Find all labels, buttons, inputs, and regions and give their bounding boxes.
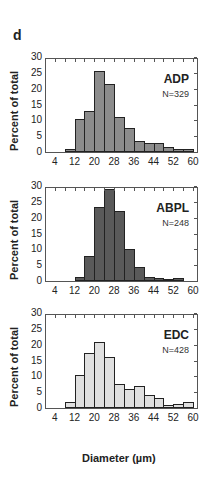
x-minor-tick xyxy=(144,315,145,318)
y-minor-tick xyxy=(194,202,197,203)
plot-area-abpl: ABPLN=248 xyxy=(45,187,198,282)
y-tick-label: 10 xyxy=(20,114,42,125)
x-minor-tick xyxy=(94,188,95,191)
y-axis-label: Percent of total xyxy=(8,199,20,279)
x-minor-tick xyxy=(55,315,56,318)
x-minor-tick xyxy=(144,59,145,62)
x-tick-label: 28 xyxy=(104,156,124,167)
y-minor-tick xyxy=(194,73,197,74)
y-tick-label: 15 xyxy=(20,355,42,366)
y-tick-label: 10 xyxy=(20,243,42,254)
y-minor-tick xyxy=(194,186,197,187)
sample-size-label: N=248 xyxy=(162,218,189,228)
x-minor-tick xyxy=(193,188,194,191)
x-minor-tick xyxy=(65,188,66,191)
x-minor-tick xyxy=(114,188,115,191)
x-minor-tick xyxy=(75,59,76,62)
histogram-bar xyxy=(183,149,194,152)
y-minor-tick xyxy=(194,313,197,314)
x-minor-tick xyxy=(193,315,194,318)
y-minor-tick xyxy=(194,105,197,106)
x-minor-tick xyxy=(75,188,76,191)
x-minor-tick xyxy=(144,188,145,191)
x-minor-tick xyxy=(154,188,155,191)
y-tick-label: 20 xyxy=(20,212,42,223)
x-minor-tick xyxy=(134,188,135,191)
x-minor-tick xyxy=(104,315,105,318)
x-minor-tick xyxy=(134,315,135,318)
y-tick-label: 10 xyxy=(20,370,42,381)
x-tick-label: 44 xyxy=(144,156,164,167)
x-minor-tick xyxy=(173,315,174,318)
x-minor-tick xyxy=(94,315,95,318)
x-tick-label: 44 xyxy=(144,285,164,296)
x-tick-label: 4 xyxy=(45,412,65,423)
series-title: ABPL xyxy=(156,201,189,215)
series-title: ADP xyxy=(164,72,189,86)
y-tick-label: 30 xyxy=(20,307,42,318)
y-minor-tick xyxy=(194,361,197,362)
y-minor-tick xyxy=(194,281,197,282)
y-minor-tick xyxy=(194,120,197,121)
y-tick-label: 25 xyxy=(20,67,42,78)
x-minor-tick xyxy=(134,59,135,62)
x-axis-label: Diameter (µm) xyxy=(82,452,156,464)
x-tick-label: 12 xyxy=(65,412,85,423)
x-tick-label: 52 xyxy=(163,156,183,167)
x-minor-tick xyxy=(94,59,95,62)
x-minor-tick xyxy=(104,188,105,191)
y-minor-tick xyxy=(194,345,197,346)
x-tick-label: 4 xyxy=(45,156,65,167)
x-tick-label: 20 xyxy=(84,156,104,167)
y-tick-label: 5 xyxy=(20,386,42,397)
x-tick-label: 52 xyxy=(163,412,183,423)
x-minor-tick xyxy=(114,315,115,318)
x-minor-tick xyxy=(55,188,56,191)
x-minor-tick xyxy=(173,59,174,62)
plot-area-adp: ADPN=329 xyxy=(45,58,198,153)
y-tick-label: 5 xyxy=(20,259,42,270)
x-tick-label: 60 xyxy=(183,156,203,167)
y-tick-label: 5 xyxy=(20,130,42,141)
y-minor-tick xyxy=(194,376,197,377)
x-minor-tick xyxy=(163,59,164,62)
y-minor-tick xyxy=(194,234,197,235)
y-minor-tick xyxy=(194,136,197,137)
plot-area-edc: EDCN=428 xyxy=(45,314,198,409)
y-minor-tick xyxy=(194,57,197,58)
y-minor-tick xyxy=(194,408,197,409)
x-minor-tick xyxy=(84,188,85,191)
x-tick-label: 44 xyxy=(144,412,164,423)
y-tick-label: 20 xyxy=(20,339,42,350)
y-minor-tick xyxy=(194,329,197,330)
y-axis-label: Percent of total xyxy=(8,326,20,406)
x-minor-tick xyxy=(104,59,105,62)
y-tick-label: 25 xyxy=(20,323,42,334)
y-minor-tick xyxy=(194,218,197,219)
x-tick-label: 28 xyxy=(104,412,124,423)
x-tick-label: 20 xyxy=(84,285,104,296)
y-tick-label: 30 xyxy=(20,51,42,62)
x-minor-tick xyxy=(114,59,115,62)
x-minor-tick xyxy=(183,59,184,62)
y-tick-label: 25 xyxy=(20,196,42,207)
y-minor-tick xyxy=(194,152,197,153)
y-minor-tick xyxy=(194,249,197,250)
x-minor-tick xyxy=(124,188,125,191)
y-tick-label: 30 xyxy=(20,180,42,191)
x-minor-tick xyxy=(173,188,174,191)
x-minor-tick xyxy=(154,315,155,318)
y-tick-label: 0 xyxy=(20,275,42,286)
y-tick-label: 0 xyxy=(20,402,42,413)
y-tick-label: 20 xyxy=(20,83,42,94)
x-tick-label: 28 xyxy=(104,285,124,296)
x-minor-tick xyxy=(183,188,184,191)
x-tick-label: 36 xyxy=(124,412,144,423)
histogram-bar xyxy=(183,402,194,408)
x-minor-tick xyxy=(154,59,155,62)
x-minor-tick xyxy=(84,59,85,62)
x-minor-tick xyxy=(193,59,194,62)
x-tick-label: 12 xyxy=(65,285,85,296)
x-tick-label: 4 xyxy=(45,285,65,296)
x-minor-tick xyxy=(163,188,164,191)
